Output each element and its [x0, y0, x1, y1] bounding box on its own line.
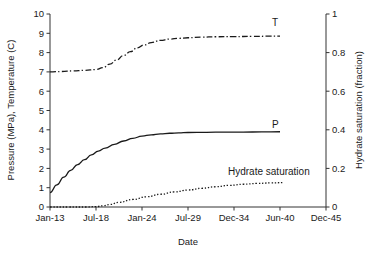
chart-figure: 012345678910 00.20.40.60.81 Jan-13Jul-18… [0, 0, 371, 254]
series-curve-hydrate-saturation [50, 183, 282, 207]
y-left-tick-label: 3 [39, 144, 44, 155]
y-left-tick-label: 8 [39, 47, 44, 58]
x-axis: Jan-13Jul-18Jan-24Jul-29Dec-34Jun-40Dec-… [35, 207, 341, 223]
y-left-tick-label: 7 [39, 66, 44, 77]
y-axis-right-title: Hydrate saturation (fraction) [353, 51, 364, 169]
y-left-tick-label: 0 [39, 201, 44, 212]
y-right-tick-label: 0.8 [332, 47, 345, 58]
x-tick-label: Dec-34 [219, 212, 250, 223]
series-label-hydrate-saturation: Hydrate saturation [228, 166, 310, 177]
x-tick-label: Jan-13 [35, 212, 64, 223]
y-right-tick-label: 0.6 [332, 86, 345, 97]
x-tick-label: Jul-29 [175, 212, 201, 223]
series-label-p: P [272, 119, 279, 130]
y-axis-right: 00.20.40.60.81 [326, 8, 345, 212]
series-curve-t [50, 36, 280, 72]
y-axis-left: 012345678910 [33, 8, 50, 212]
x-tick-label: Jan-24 [127, 212, 156, 223]
x-axis-title: Date [178, 236, 198, 247]
series-annotations: TPHydrate saturation [228, 17, 310, 177]
y-left-tick-label: 4 [39, 124, 44, 135]
y-axis-right-ticks: 00.20.40.60.81 [326, 8, 345, 212]
chart-plot-area: 012345678910 00.20.40.60.81 Jan-13Jul-18… [0, 0, 371, 254]
y-left-tick-label: 1 [39, 182, 44, 193]
y-right-tick-label: 0 [332, 201, 337, 212]
x-tick-label: Dec-45 [311, 212, 342, 223]
y-axis-left-title: Pressure (MPa), Temperature (C) [5, 40, 16, 181]
y-left-tick-label: 10 [33, 8, 44, 19]
y-axis-left-ticks: 012345678910 [33, 8, 50, 212]
chart-series-group [50, 36, 282, 207]
series-curve-p [50, 132, 280, 193]
y-left-tick-label: 2 [39, 163, 44, 174]
y-right-tick-label: 1 [332, 8, 337, 19]
x-axis-ticks: Jan-13Jul-18Jan-24Jul-29Dec-34Jun-40Dec-… [35, 207, 341, 223]
x-tick-label: Jul-18 [83, 212, 109, 223]
series-label-t: T [272, 17, 278, 28]
y-left-tick-label: 6 [39, 86, 44, 97]
y-right-tick-label: 0.2 [332, 163, 345, 174]
y-left-tick-label: 9 [39, 28, 44, 39]
y-right-tick-label: 0.4 [332, 124, 345, 135]
x-tick-label: Jun-40 [265, 212, 294, 223]
y-left-tick-label: 5 [39, 105, 44, 116]
